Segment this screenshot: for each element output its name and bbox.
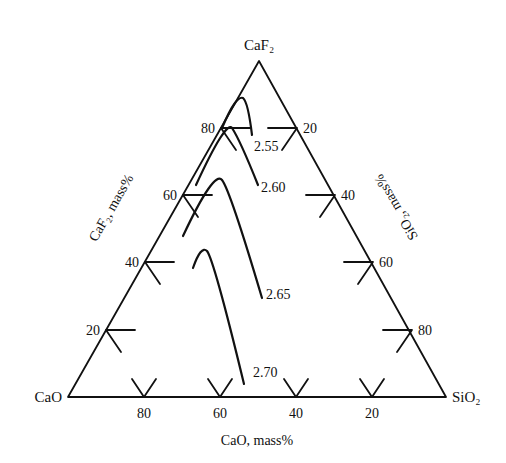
bottom-tick-60: 60 (213, 406, 227, 421)
right-tick-60: 60 (379, 255, 393, 270)
vertex-top-label: CaF₂ (244, 37, 274, 53)
right-axis-label: SiO₂, mass% (371, 171, 421, 242)
curve-label-2.60: 2.60 (261, 180, 286, 195)
iso-curves (183, 98, 262, 384)
left-tick-80: 80 (201, 121, 215, 136)
curve-label-2.55: 2.55 (254, 139, 279, 154)
right-tick-80: 80 (418, 323, 432, 338)
left-axis-label: CaF₂, mass% (86, 171, 137, 244)
bottom-tick-40: 40 (289, 406, 303, 421)
curve-label-2.70: 2.70 (253, 365, 278, 380)
curve-2.70 (193, 250, 244, 384)
left-tick-40: 40 (125, 255, 139, 270)
left-tick-60: 60 (163, 188, 177, 203)
bottom-tick-80: 80 (137, 406, 151, 421)
bottom-tick-20: 20 (365, 406, 379, 421)
right-ticks (268, 128, 412, 352)
triangle-frame (68, 61, 446, 397)
left-tick-20: 20 (86, 323, 100, 338)
curve-2.65 (183, 179, 262, 298)
ternary-diagram: CaF₂ CaO SiO₂ 80 60 40 20 20 40 60 80 80… (0, 0, 506, 463)
bottom-ticks (132, 379, 384, 397)
bottom-axis-label: CaO, mass% (221, 433, 294, 448)
curve-label-2.65: 2.65 (266, 287, 291, 302)
vertex-right-label: SiO₂ (452, 389, 481, 405)
right-tick-40: 40 (341, 188, 355, 203)
vertex-left-label: CaO (35, 389, 63, 405)
right-tick-20: 20 (303, 121, 317, 136)
